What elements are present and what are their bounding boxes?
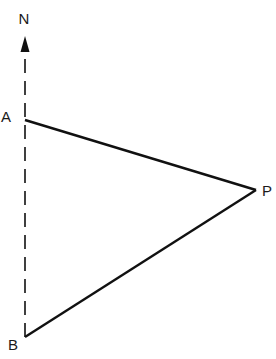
- label-north: N: [19, 10, 30, 27]
- line-BP: [25, 190, 256, 337]
- label-a: A: [1, 108, 11, 125]
- north-arrow-icon: [21, 36, 30, 52]
- line-AP: [25, 120, 256, 190]
- label-p: P: [262, 182, 272, 199]
- label-b: B: [8, 336, 18, 353]
- bearing-diagram: N A P B: [0, 0, 276, 359]
